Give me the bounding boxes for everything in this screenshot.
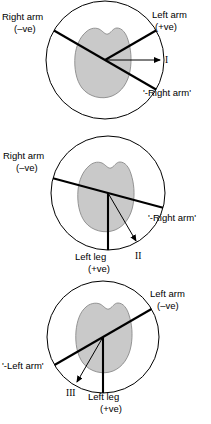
panel-lead-i-left-arm-label: Left arm (152, 9, 187, 20)
panel-lead-iii-left-leg-polarity: (+ve) (100, 403, 122, 414)
panel-lead-iii-left-leg-label: Left leg (88, 391, 119, 402)
panel-lead-iii: Left arm (–ve) '-Left arm' III Left leg … (2, 281, 185, 414)
heart-silhouette (75, 28, 131, 98)
panel-lead-iii-left-arm-polarity: (–ve) (157, 300, 179, 311)
panel-lead-i-right-arm-polarity: (–ve) (14, 23, 36, 34)
panel-lead-ii-right-arm-polarity: (–ve) (16, 162, 38, 173)
panel-lead-i-left-arm-polarity: (+ve) (155, 21, 177, 32)
panel-lead-ii: Right arm (–ve) '-Right arm' Left leg (+… (3, 136, 196, 274)
panel-lead-iii-lead-label: III (66, 388, 76, 398)
panel-lead-ii-lead-label: II (135, 251, 141, 261)
panel-lead-i: Right arm (–ve) Left arm (+ve) I '-Right… (2, 1, 191, 119)
panel-lead-iii-left-arm-label: Left arm (150, 288, 185, 299)
panel-lead-ii-minus-right-arm-label: '-Right arm' (148, 212, 196, 223)
panel-lead-ii-left-leg-label: Left leg (75, 251, 106, 262)
ecg-limb-lead-axes-diagram: Right arm (–ve) Left arm (+ve) I '-Right… (0, 0, 211, 424)
panel-lead-ii-right-arm-label: Right arm (3, 150, 44, 161)
panel-lead-i-lead-label: I (165, 55, 168, 65)
panel-lead-i-right-arm-label: Right arm (2, 11, 43, 22)
panel-lead-ii-left-leg-polarity: (+ve) (88, 263, 110, 274)
panel-lead-iii-minus-left-arm-label: '-Left arm' (2, 360, 44, 371)
panel-lead-i-minus-right-arm-label: '-Right arm' (143, 87, 191, 98)
